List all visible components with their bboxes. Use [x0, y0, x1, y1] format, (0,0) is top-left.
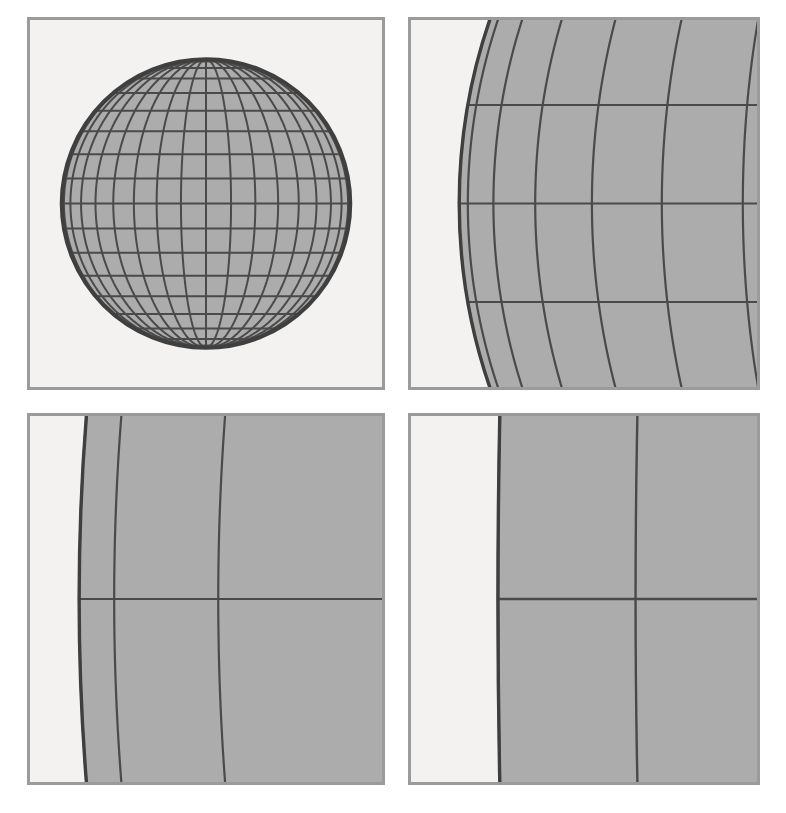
sphere-plot-b [411, 20, 757, 387]
sphere-plot-d [411, 416, 757, 782]
sphere-plot-a [30, 20, 382, 387]
figure-root [0, 0, 786, 813]
panel-bottom-left [27, 413, 385, 785]
panel-top-right [408, 17, 760, 390]
panel-top-left [27, 17, 385, 390]
sphere-plot-c [30, 416, 382, 782]
panel-bottom-right [408, 413, 760, 785]
